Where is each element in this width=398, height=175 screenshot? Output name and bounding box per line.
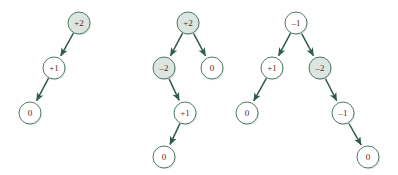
edges-layer xyxy=(37,33,361,145)
node-label: 0 xyxy=(28,108,33,118)
tree-node[interactable]: –2 xyxy=(309,57,332,80)
tree-node[interactable]: –1 xyxy=(332,102,355,125)
node-label: 0 xyxy=(366,152,371,162)
node-label: +2 xyxy=(183,18,193,28)
tree-3-nodes: –1+1–20–10 xyxy=(236,12,380,169)
node-label: +2 xyxy=(74,18,84,28)
tree-node[interactable]: 0 xyxy=(357,146,380,169)
node-label: 0 xyxy=(162,152,167,162)
tree-node[interactable]: +2 xyxy=(68,12,91,35)
node-label: +1 xyxy=(267,63,277,73)
tree-figure-canvas: +2+10+2–20+10–1+1–20–10 xyxy=(0,0,398,175)
tree-1-nodes: +2+10 xyxy=(19,12,91,125)
tree-node[interactable]: +1 xyxy=(174,102,197,125)
tree-edge xyxy=(61,33,74,56)
tree-node[interactable]: –1 xyxy=(285,12,308,35)
node-label: –2 xyxy=(159,63,169,73)
node-label: +1 xyxy=(49,63,59,73)
tree-node[interactable]: +1 xyxy=(43,57,66,80)
tree-3-edges xyxy=(254,33,361,145)
tree-edge xyxy=(37,78,49,101)
node-label: 0 xyxy=(210,63,215,73)
tree-node[interactable]: –2 xyxy=(153,57,176,80)
tree-edge xyxy=(325,78,336,100)
tree-2-edges xyxy=(169,33,206,144)
tree-2-nodes: +2–20+10 xyxy=(153,12,224,169)
node-label: –1 xyxy=(291,18,301,28)
node-label: –1 xyxy=(338,108,348,118)
tree-node[interactable]: 0 xyxy=(236,102,259,125)
tree-node[interactable]: +1 xyxy=(261,57,284,80)
node-label: –2 xyxy=(315,63,325,73)
tree-edge xyxy=(254,78,267,101)
node-label: 0 xyxy=(245,108,250,118)
tree-node[interactable]: 0 xyxy=(153,146,176,169)
tree-edge xyxy=(301,33,313,56)
tree-edge xyxy=(349,123,361,145)
tree-edge xyxy=(169,78,179,100)
tree-node[interactable]: 0 xyxy=(19,102,42,125)
tree-node[interactable]: 0 xyxy=(201,57,224,80)
tree-edge xyxy=(279,33,291,56)
nodes-layer: +2+10+2–20+10–1+1–20–10 xyxy=(19,12,380,169)
tree-diagram-svg: +2+10+2–20+10–1+1–20–10 xyxy=(0,0,398,175)
tree-edge xyxy=(170,123,180,144)
tree-edge xyxy=(171,33,183,56)
tree-edge xyxy=(193,33,205,56)
node-label: +1 xyxy=(180,108,190,118)
tree-node[interactable]: +2 xyxy=(177,12,200,35)
